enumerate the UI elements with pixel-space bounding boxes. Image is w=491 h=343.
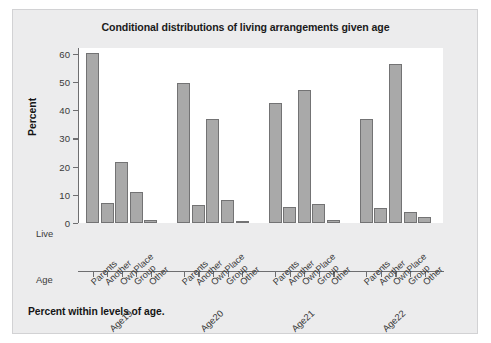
- chart-title: Conditional distributions of living arra…: [0, 21, 491, 33]
- y-tick-mark: [73, 110, 78, 111]
- bar: [86, 53, 99, 223]
- bar: [374, 208, 387, 223]
- y-axis-title: Percent: [27, 98, 38, 136]
- bar: [312, 204, 325, 223]
- y-tick-mark: [73, 195, 78, 196]
- footnote: Percent within levels of age.: [28, 306, 164, 317]
- plot-wrapper: 0102030405060 ParentsAnotherOwnPlaceGrou…: [78, 48, 443, 223]
- bar: [206, 119, 219, 223]
- bar: [144, 220, 157, 223]
- bar: [327, 220, 340, 223]
- bar: [404, 212, 417, 223]
- bar: [283, 207, 296, 223]
- y-tick-label: 40: [59, 105, 70, 116]
- bar: [360, 119, 373, 223]
- bar: [115, 162, 128, 223]
- y-tick-label: 20: [59, 161, 70, 172]
- screenshot-root: Conditional distributions of living arra…: [0, 0, 491, 343]
- y-tick-label: 60: [59, 48, 70, 59]
- bar: [221, 200, 234, 223]
- y-tick-mark: [73, 82, 78, 83]
- y-tick-label: 30: [59, 133, 70, 144]
- row-key-age: Age: [36, 274, 53, 285]
- y-tick-label: 0: [65, 218, 70, 229]
- y-tick-mark: [73, 138, 78, 139]
- y-tick-label: 10: [59, 189, 70, 200]
- bar: [192, 205, 205, 223]
- bar: [101, 203, 114, 223]
- bar: [177, 83, 190, 223]
- bar: [389, 64, 402, 223]
- bar: [269, 103, 282, 223]
- y-tick-mark: [73, 167, 78, 168]
- row-key-live: Live: [36, 228, 53, 239]
- y-tick-mark: [73, 223, 78, 224]
- y-tick-mark: [73, 54, 78, 55]
- bar: [236, 221, 249, 223]
- bar: [298, 90, 311, 223]
- y-tick-label: 50: [59, 76, 70, 87]
- bar: [130, 192, 143, 223]
- bar: [418, 217, 431, 223]
